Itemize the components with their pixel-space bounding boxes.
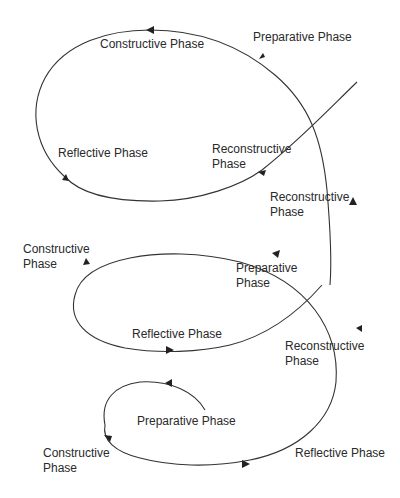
label-top-preparative: Preparative Phase: [253, 30, 352, 45]
arrow-mid-reconstructive-up: [349, 197, 357, 205]
label-bottom-reflective: Reflective Phase: [295, 446, 385, 461]
arrow-top-reconstructive: [258, 170, 266, 176]
label-top-constructive: Constructive Phase: [100, 37, 204, 52]
label-bottom-constructive-line1: Constructive: [43, 446, 110, 461]
label-bottom-preparative: Preparative Phase: [137, 414, 236, 429]
label-mid-reflective: Reflective Phase: [132, 327, 222, 342]
label-low-reconstructive-line1: Reconstructive: [285, 339, 364, 354]
arrow-top-preparative: [259, 53, 265, 59]
label-mid-reconstructive-line1: Reconstructive: [270, 190, 349, 205]
spiral-diagram: Constructive Phase Preparative Phase Ref…: [0, 0, 400, 498]
arrow-bottom-preparative: [165, 379, 172, 387]
label-mid-reconstructive-line2: Phase: [270, 205, 304, 220]
label-top-reconstructive-line1: Reconstructive: [212, 142, 291, 157]
label-low-reconstructive-line2: Phase: [285, 354, 319, 369]
label-bottom-constructive-line2: Phase: [43, 461, 77, 476]
entry-line: [65, 82, 357, 201]
arrow-mid-constructive: [83, 258, 90, 265]
label-mid-preparative-line1: Preparative: [236, 261, 297, 276]
label-mid-constructive-line2: Phase: [23, 257, 57, 272]
arrow-mid-reflective: [166, 346, 174, 354]
label-mid-preparative-line2: Phase: [236, 276, 270, 291]
label-top-reconstructive-line2: Phase: [212, 157, 246, 172]
arrow-top-constructive: [146, 26, 154, 34]
arrow-low-reconstructive: [356, 325, 362, 332]
label-top-reflective: Reflective Phase: [58, 146, 148, 161]
label-mid-constructive-line1: Constructive: [23, 242, 90, 257]
arrow-mid-preparative: [272, 250, 280, 258]
